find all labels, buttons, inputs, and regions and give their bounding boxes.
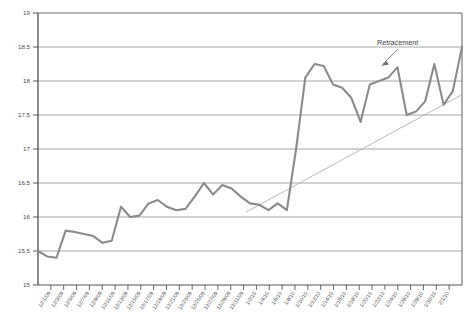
ytick-label-17: 17 [23,145,30,152]
retracement-annotation-label: Retracement [377,38,418,47]
line-chart: 19 18.5 18 17.5 17 16.5 16 15.5 15 12/1/… [0,0,476,330]
xtick-label-1/30/10: 1/30/10 [422,290,437,308]
ytick-label-17.5: 17.5 [18,111,31,118]
ytick-label-15: 15 [23,281,30,288]
xtick-label-1/4/10: 1/4/10 [257,290,270,306]
ytick-label-16.5: 16.5 [18,179,31,186]
x-axis-ticks [51,285,449,290]
ytick-label-15.5: 15.5 [18,247,31,254]
chart-container: 19 18.5 18 17.5 17 16.5 16 15.5 15 12/1/… [0,0,476,330]
y-axis-tick-labels: 19 18.5 18 17.5 17 16.5 16 15.5 15 [18,9,31,288]
xtick-label-2/1/10: 2/1/10 [437,290,450,306]
ytick-label-18.5: 18.5 [18,43,31,50]
ytick-label-18: 18 [23,77,30,84]
xtick-label-1/6/10: 1/6/10 [270,290,283,306]
ytick-label-19: 19 [23,9,30,16]
x-axis-tick-labels: 12/1/0912/3/0912/5/0912/7/0912/9/0912/11… [37,290,450,310]
y-axis-ticks [33,13,38,285]
ytick-label-16: 16 [23,213,30,220]
xtick-label-1/2/10: 1/2/10 [244,290,257,306]
